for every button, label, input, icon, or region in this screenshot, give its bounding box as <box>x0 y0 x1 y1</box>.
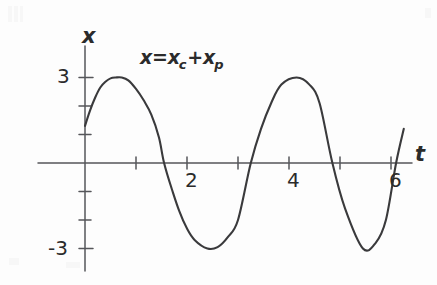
equation-subscript-p: p <box>214 57 223 72</box>
equation-plus-term: +x <box>187 46 215 68</box>
equation-annotation: x=xc+xp <box>140 48 224 67</box>
x-axis-label: t <box>415 144 425 165</box>
figure-canvas: x t 3 -3 2 4 6 x=xc+xp <box>0 0 437 285</box>
x-tick-label-4: 4 <box>287 170 300 190</box>
equation-subscript-c: c <box>179 57 187 72</box>
x-tick-label-6: 6 <box>389 170 402 190</box>
y-tick-label-neg3: -3 <box>48 238 68 258</box>
y-tick-label-3: 3 <box>57 66 70 86</box>
y-axis-label: x <box>82 26 96 47</box>
equation-lhs: x=x <box>140 46 180 68</box>
x-tick-label-2: 2 <box>185 170 198 190</box>
curve-x-total <box>85 77 404 250</box>
